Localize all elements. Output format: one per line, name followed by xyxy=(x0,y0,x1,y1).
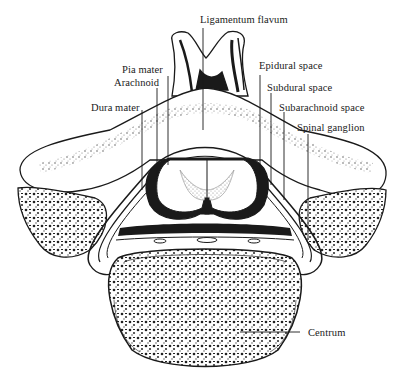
label-arachnoid: Arachnoid xyxy=(114,77,159,89)
label-subdural-space: Subdural space xyxy=(267,82,332,94)
epidural-region xyxy=(116,224,294,244)
vertebra-cross-section-illustration xyxy=(0,0,404,378)
pedicle-right xyxy=(299,188,386,257)
spinous-process xyxy=(172,32,248,97)
centrum xyxy=(109,249,302,367)
label-spinal-ganglion: Spinal ganglion xyxy=(297,122,365,134)
label-subarachnoid-space: Subarachnoid space xyxy=(279,102,364,114)
label-dura-mater: Dura mater xyxy=(91,102,140,114)
label-pia-mater: Pia mater xyxy=(122,64,163,76)
label-ligamentum-flavum: Ligamentum flavum xyxy=(200,14,288,26)
label-centrum: Centrum xyxy=(308,327,345,339)
pedicle-left xyxy=(18,187,106,257)
label-epidural-space: Epidural space xyxy=(259,60,323,72)
spinal-cord xyxy=(146,158,268,219)
